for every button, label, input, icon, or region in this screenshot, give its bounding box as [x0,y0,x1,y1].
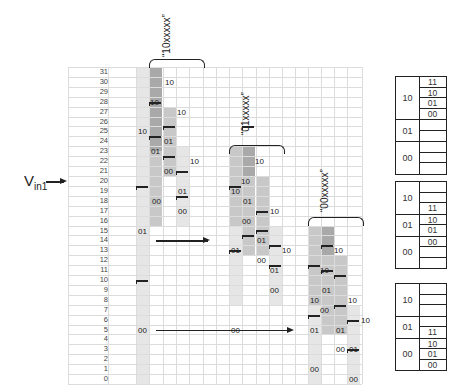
grid-line [68,275,362,276]
row-label: 24 [68,136,108,146]
bar-code-label: 00 [152,197,161,206]
grid-line [68,146,362,147]
bar-code-label: 01 [151,147,160,156]
grid-line [229,67,230,384]
bar-code-label: 00 [336,345,345,354]
group-3-brace [308,217,364,226]
grid-line [68,305,362,306]
grid-line [163,67,164,384]
map-slot [419,247,446,258]
grid-line [68,67,362,68]
row-label: 2 [68,354,108,364]
bar-code-label: 01 [138,227,147,236]
threshold-tick [149,102,161,104]
row-label: 12 [68,255,108,265]
bar-code-label: 10 [282,246,291,255]
map-slot: 10 [419,215,446,226]
bar-code-label: 01 [322,286,331,295]
row-label: 10 [68,275,108,285]
map-slot: 10 [419,88,446,99]
grid-line [68,166,362,167]
row-label: 21 [68,166,108,176]
threshold-tick [308,265,320,267]
grid-line [68,136,362,137]
grid-line [68,97,362,98]
bar-code-label: 00 [320,306,329,315]
threshold-tick [149,136,161,138]
row-label: 4 [68,334,108,344]
group-3-label: “00xxxxx” [319,169,330,212]
map-slot: 01 [419,225,446,236]
grid-line [68,156,362,157]
bar-code-label: 10 [334,246,343,255]
map-slot [419,163,446,174]
row-label: 7 [68,305,108,315]
map-slot: 11 [419,203,446,214]
threshold-tick [256,230,268,232]
row-label: 11 [68,265,108,275]
bar-code-label: 10 [241,177,250,186]
threshold-tick [308,315,320,317]
map-slot [419,305,446,316]
row-label: 14 [68,235,108,245]
vin1-label: Vin1 [24,172,47,192]
row-label: 26 [68,117,108,127]
threshold-tick [334,305,346,307]
grid-line [68,117,362,118]
map-slot [419,295,446,306]
bar-code-label: 10 [270,207,279,216]
threshold-tick [269,245,281,247]
grid-line [68,176,362,177]
row-label: 30 [68,77,108,87]
map-slot: 00 [419,109,446,120]
bar-code-label: 01 [178,187,187,196]
bar-code-label: 01 [270,266,279,275]
grid-line [295,67,296,384]
map-group-label: 01 [396,120,420,141]
bar-code-label: 01 [310,326,319,335]
grid-line [68,77,362,78]
grid-line [189,67,190,384]
bar-code-label: 10 [348,296,357,305]
grid-line [136,67,137,384]
map-group: 01 10 01 [396,215,446,237]
bar-code-label: 10 [310,296,319,305]
group-2-brace [229,145,285,154]
grid-line [282,67,283,384]
map-group-label: 01 [396,317,420,338]
row-label: 13 [68,245,108,255]
bar-code-label: 10 [361,316,370,325]
grid-line [68,384,362,385]
row-label: 20 [68,176,108,186]
map-slot: 01 [419,349,446,360]
bar-code-label: 00 [257,256,266,265]
row-label: 18 [68,196,108,206]
bar-code-label: 01 [164,137,173,146]
grid-line [68,107,362,108]
grid-line [68,87,362,88]
grid-line [68,354,362,355]
map-group: 10 11 [396,182,446,215]
grid-line [216,67,217,384]
map-slot [419,193,446,204]
threshold-tick [229,250,241,252]
row-label: 15 [68,226,108,236]
map-slot [419,258,446,269]
row-label: 22 [68,156,108,166]
row-label: 9 [68,285,108,295]
bar-code-label: 00 [138,326,147,335]
group-2-label: “01xxxxx” [240,92,251,135]
map-group-label: 10 [396,284,420,316]
vin1-arrow-icon [46,181,64,183]
row-label: 31 [68,67,108,77]
grid-line [68,186,362,187]
bar-code-label: 10 [177,108,186,117]
map-group-label: 10 [396,77,420,119]
group-1-label: “10xxxxx” [161,14,172,57]
row-label: 23 [68,146,108,156]
threshold-tick [136,186,148,188]
threshold-tick [136,280,148,282]
grid-line [108,67,109,384]
map-slot [419,120,446,131]
code-map-1: 10 11 10 01 00 01 00 [395,76,447,175]
